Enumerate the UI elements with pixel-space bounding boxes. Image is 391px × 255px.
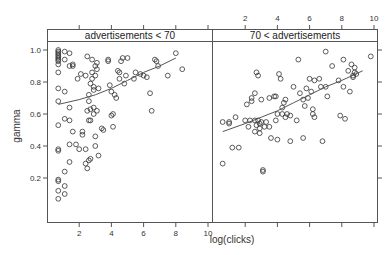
data-point: [67, 142, 72, 147]
x-tick-label: 2: [77, 229, 82, 238]
loess-trend-line: [58, 58, 176, 104]
data-point: [230, 145, 235, 150]
data-point: [173, 51, 178, 56]
data-point: [325, 94, 330, 99]
data-point: [338, 113, 343, 118]
data-point: [249, 99, 254, 104]
y-tick-label: 1.0: [30, 46, 42, 55]
data-point: [267, 96, 272, 101]
x-axis-label: log(clicks): [210, 234, 254, 245]
data-point: [180, 67, 185, 72]
data-point: [244, 102, 249, 107]
data-point: [78, 72, 83, 77]
data-point: [257, 131, 262, 136]
data-point: [86, 99, 91, 104]
data-point: [341, 84, 346, 89]
data-point: [62, 169, 67, 174]
data-point: [56, 70, 61, 75]
data-point: [304, 86, 309, 91]
lattice-scatter-chart: advertisements < 70 70 < advertisements …: [0, 0, 391, 255]
data-point: [111, 124, 116, 129]
data-point: [243, 118, 248, 123]
y-axis-label: gamma: [11, 109, 22, 143]
data-point: [323, 49, 328, 54]
top-x-tick-label: 2: [243, 14, 248, 23]
data-point: [347, 89, 352, 94]
data-point: [312, 78, 317, 83]
data-point: [123, 73, 128, 78]
right-strip-label: 70 < advertisements: [250, 30, 340, 41]
data-point: [330, 64, 335, 69]
data-point: [262, 124, 267, 129]
data-point: [246, 124, 251, 129]
data-point: [93, 144, 98, 149]
data-point: [93, 134, 98, 139]
data-point: [257, 126, 262, 131]
top-x-tick-label: 6: [307, 14, 312, 23]
x-tick-label: 8: [174, 229, 179, 238]
data-point: [296, 57, 301, 62]
data-point: [148, 91, 153, 96]
data-point: [56, 62, 61, 67]
data-point: [91, 88, 96, 93]
data-point: [62, 116, 67, 121]
y-tick-label: 0.6: [30, 110, 42, 119]
data-point: [125, 56, 130, 61]
data-point: [277, 72, 282, 77]
data-point: [56, 123, 61, 128]
scatter-points: [56, 48, 373, 202]
data-point: [80, 132, 85, 137]
data-point: [301, 136, 306, 141]
trend-lines: [58, 58, 362, 132]
data-point: [117, 76, 122, 81]
data-point: [83, 73, 88, 78]
data-point: [346, 68, 351, 73]
data-point: [233, 115, 238, 120]
data-point: [294, 118, 299, 123]
data-point: [278, 76, 283, 81]
data-point: [275, 112, 280, 117]
data-point: [320, 139, 325, 144]
x-tick-label: 4: [109, 229, 114, 238]
data-point: [77, 147, 82, 152]
left-strip-label: advertisements < 70: [85, 30, 176, 41]
data-point: [74, 142, 79, 147]
top-x-tick-label: 8: [340, 14, 345, 23]
top-x-tick-label: 10: [370, 14, 379, 23]
data-point: [298, 91, 303, 96]
data-point: [267, 124, 272, 129]
y-tick-label: 0.2: [30, 174, 42, 183]
data-point: [62, 184, 67, 189]
data-point: [252, 91, 257, 96]
data-point: [368, 54, 373, 59]
data-point: [62, 192, 67, 197]
data-point: [264, 120, 269, 125]
data-point: [75, 76, 80, 81]
data-point: [62, 57, 67, 62]
data-point: [291, 84, 296, 89]
data-point: [62, 89, 67, 94]
data-point: [93, 73, 98, 78]
data-point: [56, 86, 61, 91]
data-point: [85, 166, 90, 171]
data-point: [95, 108, 100, 113]
data-point: [90, 57, 95, 62]
data-point: [341, 57, 346, 62]
data-point: [56, 188, 61, 193]
data-point: [317, 76, 322, 81]
data-point: [236, 145, 241, 150]
data-point: [107, 83, 112, 88]
data-point: [67, 51, 72, 56]
data-point: [67, 118, 72, 123]
data-point: [56, 196, 61, 201]
data-point: [352, 65, 357, 70]
y-tick-label: 0.8: [30, 78, 42, 87]
axis-ticks: 0.20.40.60.81.0246810246810: [30, 14, 382, 238]
data-point: [310, 107, 315, 112]
data-point: [275, 137, 280, 142]
data-point: [67, 105, 72, 110]
data-point: [83, 147, 88, 152]
data-point: [259, 97, 264, 102]
data-point: [220, 120, 225, 125]
data-point: [70, 129, 75, 134]
